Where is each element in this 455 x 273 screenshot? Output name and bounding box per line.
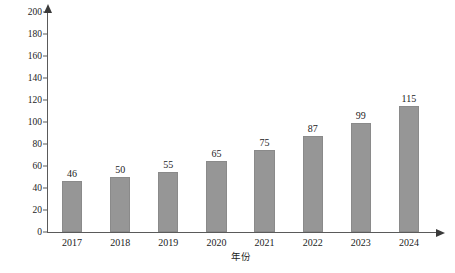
y-tick-label: 160	[2, 51, 42, 61]
bar[interactable]	[351, 123, 371, 232]
bar-value-label: 55	[144, 159, 192, 170]
bar-chart-figure: 市场规模/亿美元 020406080100120140160180200 465…	[0, 0, 455, 273]
x-tick-label: 2024	[385, 236, 433, 250]
bar-value-label: 115	[385, 93, 433, 104]
bar[interactable]	[158, 172, 178, 233]
x-tick-label: 2017	[48, 236, 96, 250]
bar-group: 65	[206, 12, 226, 232]
x-tick-label: 2021	[241, 236, 289, 250]
x-tick-label: 2023	[337, 236, 385, 250]
bar-group: 50	[110, 12, 130, 232]
x-tick-label: 2020	[192, 236, 240, 250]
y-tick-label: 80	[2, 139, 42, 149]
y-tick-label: 140	[2, 73, 42, 83]
bar-value-label: 50	[96, 164, 144, 175]
bar-value-label: 87	[289, 123, 337, 134]
bar[interactable]	[62, 181, 82, 232]
bar-value-label: 65	[192, 148, 240, 159]
bar-group: 87	[303, 12, 323, 232]
bar-group: 55	[158, 12, 178, 232]
bar-group: 115	[399, 12, 419, 232]
bar-value-label: 75	[240, 137, 288, 148]
bar-value-label: 46	[48, 168, 96, 179]
x-axis-arrow-icon	[436, 229, 445, 237]
x-axis-title: 年份	[48, 250, 433, 264]
x-tick-label: 2022	[289, 236, 337, 250]
y-tick-label: 200	[2, 7, 42, 17]
bar[interactable]	[399, 106, 419, 233]
y-tick-label: 100	[2, 117, 42, 127]
bar-group: 75	[254, 12, 274, 232]
y-axis-tick-labels: 020406080100120140160180200	[0, 0, 42, 273]
bar[interactable]	[110, 177, 130, 232]
bar-group: 46	[62, 12, 82, 232]
bar[interactable]	[254, 150, 274, 233]
bar[interactable]	[303, 136, 323, 232]
x-tick-label: 2018	[96, 236, 144, 250]
y-tick-label: 180	[2, 29, 42, 39]
y-tick-label: 40	[2, 183, 42, 193]
y-tick-label: 60	[2, 161, 42, 171]
y-tick-label: 20	[2, 205, 42, 215]
y-tick-label: 120	[2, 95, 42, 105]
x-tick-label: 2019	[144, 236, 192, 250]
y-tick-label: 0	[2, 227, 42, 237]
bar[interactable]	[206, 161, 226, 233]
bar-group: 99	[351, 12, 371, 232]
bar-value-label: 99	[337, 110, 385, 121]
plot-area: 46505565758799115	[48, 12, 433, 232]
x-axis-line	[47, 232, 437, 233]
